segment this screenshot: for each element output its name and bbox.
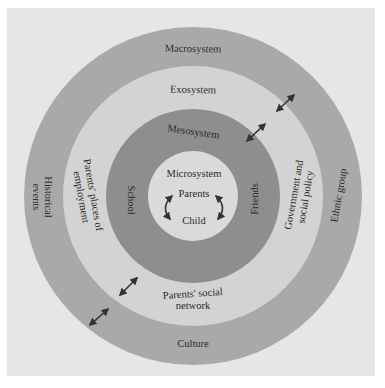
culture-label: Culture	[177, 338, 209, 349]
ecological-systems-diagram: Macrosystem Exosystem Mesosystem Microsy…	[0, 0, 385, 388]
friends-label: Friends	[249, 183, 260, 215]
svg-text:events: events	[31, 184, 42, 211]
macrosystem-label: Macrosystem	[165, 43, 222, 55]
school-label: School	[126, 185, 137, 214]
parents-label: Parents	[179, 188, 210, 199]
microsystem-label: Microsystem	[167, 168, 222, 179]
child-label: Child	[182, 215, 206, 226]
exosystem-label: Exosystem	[170, 84, 216, 96]
svg-text:network: network	[176, 300, 211, 311]
svg-text:Historical: Historical	[43, 176, 54, 217]
